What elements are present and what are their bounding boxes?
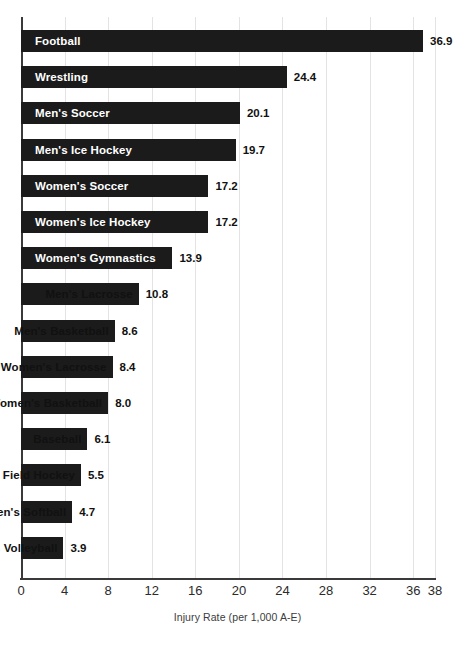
bar-category-label: Men's Ice Hockey bbox=[35, 139, 132, 161]
bar bbox=[21, 30, 423, 52]
bar-value-label: 19.7 bbox=[243, 139, 265, 161]
bar-category-label: Women's Volleyball bbox=[0, 537, 58, 559]
bar-value-label: 8.6 bbox=[122, 320, 138, 342]
x-tick-8: 8 bbox=[105, 583, 112, 598]
bar-category-label: Women's Soccer bbox=[35, 175, 128, 197]
bar-category-label: Men's Soccer bbox=[35, 102, 110, 124]
bar-category-label: Men's Lacrosse bbox=[45, 283, 132, 305]
bar-row: Women's Soccer17.2 bbox=[21, 175, 435, 197]
bar-value-label: 10.8 bbox=[146, 283, 168, 305]
x-tick-32: 32 bbox=[362, 583, 376, 598]
bar-row: Women's Gymnastics13.9 bbox=[21, 247, 435, 269]
bar-category-label: Women's Basketball bbox=[0, 392, 102, 414]
bar-value-label: 13.9 bbox=[179, 247, 201, 269]
bar-category-label: Women's Lacrosse bbox=[1, 356, 107, 378]
x-axis-tick-labels: 0481216202428323638 bbox=[0, 583, 475, 605]
bar-value-label: 4.7 bbox=[79, 501, 95, 523]
bar-value-label: 36.9 bbox=[430, 30, 452, 52]
bar-category-label: Women's Ice Hockey bbox=[35, 211, 151, 233]
x-tick-36: 36 bbox=[406, 583, 420, 598]
x-tick-0: 0 bbox=[17, 583, 24, 598]
bar-value-label: 8.4 bbox=[120, 356, 136, 378]
bar-value-label: 3.9 bbox=[70, 537, 86, 559]
x-axis-title: Injury Rate (per 1,000 A-E) bbox=[0, 611, 475, 623]
bar-row: Men's Lacrosse10.8 bbox=[21, 283, 435, 305]
bar-category-label: Field Hockey bbox=[3, 464, 75, 486]
bar-row: Field Hockey5.5 bbox=[21, 464, 435, 486]
bar-category-label: Baseball bbox=[33, 428, 81, 450]
x-tick-12: 12 bbox=[145, 583, 159, 598]
x-tick-20: 20 bbox=[232, 583, 246, 598]
bars-layer: Football36.9Wrestling24.4Men's Soccer20.… bbox=[21, 17, 435, 578]
bar-category-label: Women's Softball bbox=[0, 501, 66, 523]
bar-row: Baseball6.1 bbox=[21, 428, 435, 450]
x-tick-16: 16 bbox=[188, 583, 202, 598]
x-tick-28: 28 bbox=[319, 583, 333, 598]
bar-value-label: 5.5 bbox=[88, 464, 104, 486]
bar-row: Women's Volleyball3.9 bbox=[21, 537, 435, 559]
plot-area: Football36.9Wrestling24.4Men's Soccer20.… bbox=[21, 17, 435, 578]
bar-row: Women's Basketball8.0 bbox=[21, 392, 435, 414]
gridline-38 bbox=[435, 17, 436, 578]
bar-category-label: Wrestling bbox=[35, 66, 88, 88]
bar-value-label: 24.4 bbox=[294, 66, 316, 88]
bar-row: Wrestling24.4 bbox=[21, 66, 435, 88]
bar-row: Women's Lacrosse8.4 bbox=[21, 356, 435, 378]
chart-title bbox=[0, 0, 475, 4]
bar-value-label: 6.1 bbox=[94, 428, 110, 450]
bar-row: Men's Basketball8.6 bbox=[21, 320, 435, 342]
bar-row: Football36.9 bbox=[21, 30, 435, 52]
bar-category-label: Women's Gymnastics bbox=[35, 247, 156, 269]
bar-value-label: 17.2 bbox=[215, 175, 237, 197]
bar-row: Men's Soccer20.1 bbox=[21, 102, 435, 124]
bar-row: Women's Ice Hockey17.2 bbox=[21, 211, 435, 233]
bar-category-label: Men's Basketball bbox=[14, 320, 108, 342]
injury-rate-bar-chart: Football36.9Wrestling24.4Men's Soccer20.… bbox=[0, 0, 475, 647]
bar-row: Men's Ice Hockey19.7 bbox=[21, 139, 435, 161]
x-axis-line bbox=[20, 578, 436, 580]
bar-category-label: Football bbox=[35, 30, 81, 52]
bar-value-label: 8.0 bbox=[115, 392, 131, 414]
bar-value-label: 20.1 bbox=[247, 102, 269, 124]
bar-row: Women's Softball4.7 bbox=[21, 501, 435, 523]
bar-value-label: 17.2 bbox=[215, 211, 237, 233]
x-tick-24: 24 bbox=[275, 583, 289, 598]
x-tick-4: 4 bbox=[61, 583, 68, 598]
x-tick-38: 38 bbox=[428, 583, 442, 598]
